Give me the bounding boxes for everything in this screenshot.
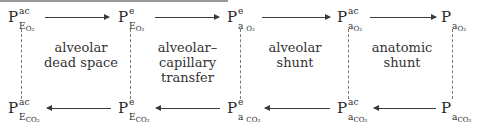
node-gas: O₂ [246, 25, 255, 33]
label-line: capillary [140, 55, 235, 70]
node-sub: E [19, 112, 26, 122]
node-base: P [8, 99, 18, 117]
dashed-connector-4 [348, 29, 349, 99]
node-sup: ac [19, 7, 29, 16]
label-line: alveolar [255, 40, 335, 55]
node-base: P [337, 8, 347, 26]
node-gas: CO₂ [136, 116, 150, 124]
node-gas: O₂ [353, 25, 362, 33]
label-alveolar-capillary-transfer: alveolar– capillary transfer [140, 40, 235, 85]
node-sub: E [129, 112, 136, 122]
label-alveolar-shunt: alveolar shunt [255, 40, 335, 70]
node-base: P [441, 99, 451, 117]
node-sup: e [238, 98, 243, 107]
arrow-right-1 [45, 17, 109, 18]
arrow-right-2 [155, 17, 219, 18]
node-Pa-O2: PaO₂ [441, 10, 466, 31]
node-Pa-O2-ac: PacaO₂ [337, 10, 362, 31]
node-PE-CO2-e: PeECO₂ [118, 101, 150, 122]
node-Pa-O2-e: Pea O₂ [227, 10, 255, 31]
node-base: P [227, 99, 237, 117]
node-sup: e [238, 7, 243, 16]
node-sup: e [129, 98, 134, 107]
dashed-connector-5 [452, 29, 453, 99]
arrow-left-2 [156, 108, 220, 109]
arrow-left-4 [374, 108, 436, 109]
node-gas: CO₂ [457, 116, 471, 124]
node-PE-O2-ac: PacEO₂ [8, 10, 34, 31]
label-line: shunt [255, 55, 335, 70]
node-gas: O₂ [136, 25, 145, 33]
node-gas: CO₂ [246, 116, 260, 124]
label-line: alveolar [36, 40, 126, 55]
node-PE-O2-e: PeEO₂ [118, 10, 144, 31]
label-line: shunt [360, 55, 444, 70]
node-Pa-CO2-e: Pea CO₂ [227, 101, 260, 122]
node-base: P [337, 99, 347, 117]
label-anatomic-shunt: anatomic shunt [360, 40, 444, 70]
node-sup: e [129, 7, 134, 16]
top-rule [0, 0, 228, 2]
node-sup: ac [19, 98, 29, 107]
node-sup: ac [348, 7, 358, 16]
node-Pa-CO2: PaCO₂ [441, 101, 471, 122]
dashed-connector-1 [21, 29, 22, 99]
arrow-right-4 [370, 17, 436, 18]
label-line: dead space [36, 55, 126, 70]
node-gas: CO₂ [353, 116, 367, 124]
dashed-connector-3 [240, 29, 241, 99]
node-gas: CO₂ [26, 116, 40, 124]
arrow-left-3 [265, 108, 330, 109]
node-gas: O₂ [457, 25, 466, 33]
label-line: alveolar– [140, 40, 235, 55]
node-gas: O₂ [26, 25, 35, 33]
arrow-right-3 [262, 17, 330, 18]
label-line: anatomic [360, 40, 444, 55]
node-base: P [441, 8, 451, 26]
node-base: P [227, 8, 237, 26]
node-PE-CO2-ac: PacECO₂ [8, 101, 40, 122]
dashed-connector-2 [130, 29, 131, 99]
node-base: P [118, 8, 128, 26]
node-base: P [8, 8, 18, 26]
label-line: transfer [140, 70, 235, 85]
node-base: P [118, 99, 128, 117]
arrow-left-1 [47, 108, 111, 109]
node-Pa-CO2-ac: PacaCO₂ [337, 101, 367, 122]
node-sup: ac [348, 98, 358, 107]
label-alveolar-dead-space: alveolar dead space [36, 40, 126, 70]
